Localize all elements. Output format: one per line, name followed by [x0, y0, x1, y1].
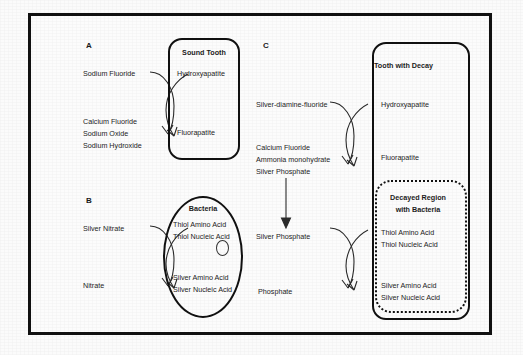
- sound-tooth-fluorapatite: Fluorapatite: [177, 127, 215, 140]
- bacteria-silver-amino-acid: Silver Amino Acid: [173, 272, 229, 285]
- sound-tooth-title: Sound Tooth: [168, 47, 240, 60]
- bacteria-title: Bacteria: [163, 203, 243, 216]
- decayed-silver-amino-acid: Silver Amino Acid: [381, 280, 437, 293]
- tooth-with-decay-title: Tooth with Decay: [374, 60, 433, 73]
- panel-label-c: C: [263, 41, 269, 50]
- panel-c-upper-crossed-arrows: [328, 96, 372, 174]
- panel-c-lower-crossed-arrows: [328, 224, 372, 296]
- tooth-decay-fluorapatite: Fluorapatite: [381, 152, 419, 165]
- panel-c-down-arrow: [280, 178, 294, 230]
- panel-c-reactant-0: Silver-diamine-fluoride: [256, 99, 328, 112]
- panel-a-reactant-0: Sodium Fluoride: [83, 68, 135, 81]
- decayed-thiol-amino-acid: Thiol Amino Acid: [381, 227, 434, 240]
- panel-label-a: A: [86, 41, 92, 50]
- panel-label-b: B: [86, 196, 92, 205]
- decayed-region-title-line2: with Bacteria: [375, 204, 461, 217]
- bacteria-silver-nucleic-acid: Silver Nucleic Acid: [173, 284, 232, 297]
- tooth-decay-hydroxyapatite: Hydroxyapatite: [381, 99, 429, 112]
- sound-tooth-hydroxyapatite: Hydroxyapatite: [177, 68, 225, 81]
- panel-a-product-2: Sodium Hydroxide: [83, 140, 142, 153]
- bacteria-thiol-amino-acid: Thiol Amino Acid: [173, 219, 226, 232]
- decayed-region-title-line1: Decayed Region: [375, 192, 461, 205]
- panel-c-product-2: Silver Phosphate: [256, 166, 310, 179]
- figure-root: A Sodium Fluoride Calcium Fluoride Sodiu…: [0, 0, 523, 355]
- panel-c-intermediate: Silver Phosphate: [256, 231, 310, 244]
- panel-c-final-product: Phosphate: [258, 286, 292, 299]
- panel-a-product-1: Sodium Oxide: [83, 128, 128, 141]
- decayed-silver-nucleic-acid: Silver Nucleic Acid: [381, 292, 440, 305]
- panel-c-product-0: Calcium Fluoride: [256, 142, 310, 155]
- decayed-thiol-nucleic-acid: Thiol Nucleic Acid: [381, 239, 438, 252]
- panel-a-product-0: Calcium Fluoride: [83, 116, 137, 129]
- bacteria-inner-circle: [216, 240, 229, 256]
- panel-c-product-1: Ammonia monohydrate: [256, 154, 330, 167]
- panel-b-product-0: Nitrate: [83, 280, 104, 293]
- panel-b-reactant-0: Silver Nitrate: [83, 223, 124, 236]
